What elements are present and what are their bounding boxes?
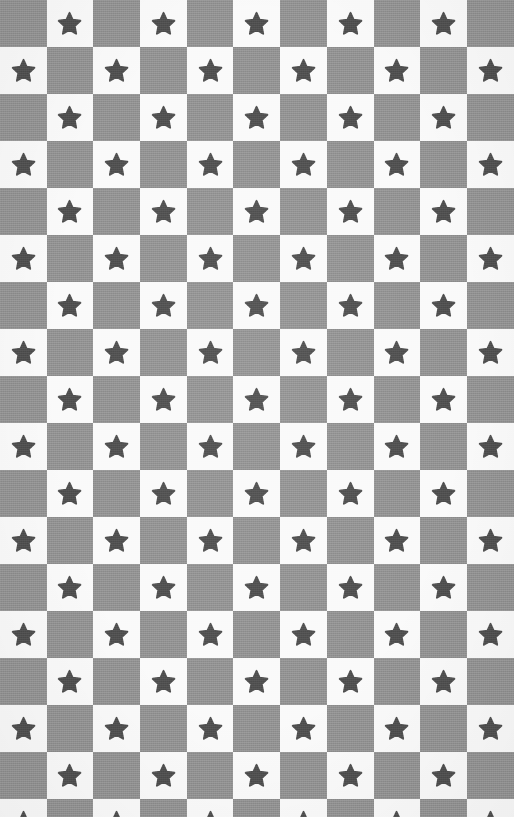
star-icon xyxy=(56,292,83,319)
star-icon xyxy=(477,339,504,366)
star-icon xyxy=(383,621,410,648)
star-checkerboard-pattern xyxy=(0,0,514,817)
checker-cell-light xyxy=(467,47,514,94)
star-icon xyxy=(103,527,130,554)
checker-cell-light xyxy=(140,564,187,611)
checker-cell-light xyxy=(467,423,514,470)
checker-cell-dark xyxy=(93,0,140,47)
star-icon xyxy=(477,433,504,460)
checker-cell-dark xyxy=(467,752,514,799)
checker-cell-light xyxy=(93,705,140,752)
checker-cell-dark xyxy=(327,329,374,376)
star-icon xyxy=(56,386,83,413)
checker-cell-dark xyxy=(233,423,280,470)
checker-cell-dark xyxy=(233,611,280,658)
checker-cell-dark xyxy=(420,329,467,376)
checker-cell-dark xyxy=(233,235,280,282)
checker-cell-dark xyxy=(140,799,187,817)
checker-cell-light xyxy=(327,376,374,423)
star-icon xyxy=(10,151,37,178)
star-icon xyxy=(430,574,457,601)
checker-cell-dark xyxy=(47,517,94,564)
star-icon xyxy=(56,10,83,37)
checker-cell-light xyxy=(467,235,514,282)
checker-cell-dark xyxy=(0,376,47,423)
star-icon xyxy=(430,480,457,507)
star-icon xyxy=(103,433,130,460)
star-icon xyxy=(197,433,224,460)
star-icon xyxy=(337,668,364,695)
checker-cell-light xyxy=(47,752,94,799)
star-icon xyxy=(243,762,270,789)
star-icon xyxy=(243,104,270,131)
star-icon xyxy=(103,809,130,817)
star-icon xyxy=(103,621,130,648)
checker-cell-light xyxy=(280,705,327,752)
checker-cell-light xyxy=(374,423,421,470)
star-icon xyxy=(10,621,37,648)
checker-cell-light xyxy=(0,705,47,752)
checker-cell-dark xyxy=(187,94,234,141)
checker-cell-light xyxy=(327,564,374,611)
checker-cell-dark xyxy=(187,282,234,329)
checker-cell-dark xyxy=(420,235,467,282)
checker-cell-light xyxy=(0,611,47,658)
checker-cell-light xyxy=(420,658,467,705)
checker-cell-light xyxy=(420,0,467,47)
checker-cell-dark xyxy=(420,141,467,188)
checker-cell-dark xyxy=(140,705,187,752)
checker-cell-dark xyxy=(187,188,234,235)
checker-cell-light xyxy=(47,564,94,611)
checker-cell-light xyxy=(140,0,187,47)
star-icon xyxy=(56,480,83,507)
checker-cell-light xyxy=(233,282,280,329)
star-icon xyxy=(150,762,177,789)
checker-cell-dark xyxy=(280,94,327,141)
checker-cell-dark xyxy=(280,752,327,799)
checker-cell-light xyxy=(280,47,327,94)
star-icon xyxy=(477,809,504,817)
checker-cell-light xyxy=(374,141,421,188)
star-icon xyxy=(383,57,410,84)
checker-cell-dark xyxy=(280,658,327,705)
checker-cell-dark xyxy=(280,0,327,47)
checker-cell-light xyxy=(280,517,327,564)
star-icon xyxy=(337,762,364,789)
checker-cell-light xyxy=(93,141,140,188)
star-icon xyxy=(337,198,364,225)
checker-cell-dark xyxy=(233,799,280,817)
checker-cell-light xyxy=(420,752,467,799)
checker-cell-dark xyxy=(280,376,327,423)
star-icon xyxy=(477,151,504,178)
star-icon xyxy=(477,715,504,742)
star-icon xyxy=(383,339,410,366)
checker-cell-dark xyxy=(140,517,187,564)
checker-cell-dark xyxy=(0,658,47,705)
star-icon xyxy=(103,245,130,272)
star-icon xyxy=(290,151,317,178)
checker-cell-dark xyxy=(93,752,140,799)
checker-cell-dark xyxy=(187,752,234,799)
checker-cell-dark xyxy=(47,141,94,188)
checker-cell-light xyxy=(0,235,47,282)
checker-cell-light xyxy=(467,611,514,658)
checker-cell-dark xyxy=(420,611,467,658)
star-icon xyxy=(10,57,37,84)
checker-cell-dark xyxy=(420,47,467,94)
checker-cell-light xyxy=(280,235,327,282)
checker-cell-light xyxy=(374,235,421,282)
checker-cell-dark xyxy=(93,470,140,517)
star-icon xyxy=(150,292,177,319)
checker-cell-light xyxy=(140,470,187,517)
checker-cell-light xyxy=(280,141,327,188)
checker-cell-dark xyxy=(327,235,374,282)
checker-cell-light xyxy=(233,470,280,517)
checker-cell-light xyxy=(280,423,327,470)
checker-cell-light xyxy=(467,799,514,817)
star-icon xyxy=(383,809,410,817)
star-icon xyxy=(243,668,270,695)
checker-cell-light xyxy=(0,423,47,470)
checker-cell-dark xyxy=(140,235,187,282)
star-icon xyxy=(150,668,177,695)
checker-cell-light xyxy=(374,705,421,752)
